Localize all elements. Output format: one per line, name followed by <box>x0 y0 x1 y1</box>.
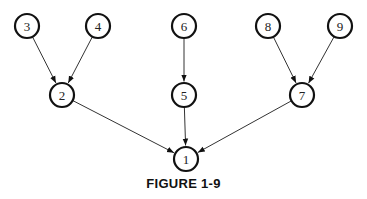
node-7: 7 <box>290 83 314 107</box>
node-label: 9 <box>337 19 344 34</box>
node-label: 4 <box>95 19 102 34</box>
node-label: 8 <box>265 19 272 34</box>
node-8: 8 <box>256 14 280 38</box>
edge-4-to-2 <box>68 37 92 83</box>
node-2: 2 <box>50 83 74 107</box>
edge-9-to-7 <box>309 37 335 84</box>
node-4: 4 <box>86 14 110 38</box>
node-label: 1 <box>183 152 190 167</box>
edge-5-to-1 <box>184 107 185 146</box>
node-label: 3 <box>24 19 31 34</box>
node-label: 5 <box>181 88 188 103</box>
node-9: 9 <box>328 14 352 38</box>
node-label: 2 <box>59 88 66 103</box>
edge-8-to-7 <box>273 37 296 83</box>
node-1: 1 <box>174 147 198 171</box>
tree-diagram: 123456789 <box>0 0 367 199</box>
node-5: 5 <box>172 83 196 107</box>
edge-3-to-2 <box>32 37 55 83</box>
nodes-group: 123456789 <box>15 14 352 171</box>
edge-7-to-1 <box>198 101 292 153</box>
node-6: 6 <box>172 14 196 38</box>
figure-caption: FIGURE 1-9 <box>0 176 367 191</box>
node-3: 3 <box>15 14 39 38</box>
edge-2-to-1 <box>73 101 174 153</box>
node-label: 6 <box>181 19 188 34</box>
node-label: 7 <box>299 88 306 103</box>
